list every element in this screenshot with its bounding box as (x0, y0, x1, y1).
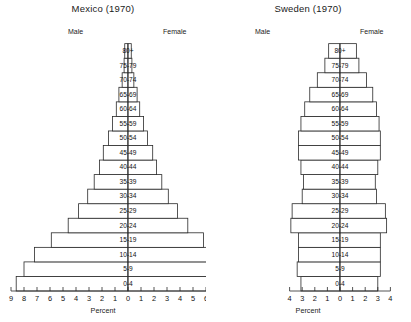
pyramid-row: 30-34 (302, 189, 376, 204)
bar-male (51, 233, 128, 248)
x-axis-tick-label: 1 (113, 294, 117, 303)
pyramid-row: 20-24 (291, 218, 387, 233)
x-axis-tick-label: 6 (48, 294, 52, 303)
pyramid-row: 35-39 (303, 175, 375, 190)
bar-male (34, 247, 128, 262)
pyramid-row: 75-79 (325, 58, 359, 73)
bar-female (128, 247, 206, 262)
x-axis-tick-label: 3 (165, 294, 169, 303)
x-axis-tick-label: 2 (100, 294, 104, 303)
pyramid-row: 15-19 (51, 233, 203, 248)
bar-female (128, 262, 206, 277)
pyramid-row: 10-14 (34, 247, 206, 262)
x-axis-tick-label: 3 (87, 294, 91, 303)
pyramid-row: 60-64 (305, 102, 377, 117)
pyramid-row: 50-54 (298, 131, 380, 146)
bar-female (340, 262, 380, 277)
x-axis-tick-label: 9 (9, 294, 13, 303)
x-axis-tick-label: 4 (178, 294, 182, 303)
x-axis-tick-label: 0 (126, 294, 130, 303)
bar-female (128, 218, 188, 233)
pyramid-svg-mexico: 0-45-910-1415-1920-2425-2930-3435-3940-4… (0, 0, 206, 322)
pyramid-row: 15-19 (298, 233, 380, 248)
x-axis-tick-label: 0 (338, 294, 342, 303)
x-axis-tick-label: 7 (35, 294, 39, 303)
x-axis-tick-label: 2 (363, 294, 367, 303)
pyramid-row: 10-14 (298, 247, 380, 262)
x-axis-tick-label: 2 (313, 294, 317, 303)
pyramid-row: 0-4 (16, 276, 206, 291)
x-axis-tick-label: 3 (376, 294, 380, 303)
bar-male (16, 276, 128, 291)
bar-female (128, 233, 203, 248)
pyramid-row: 65-69 (310, 87, 373, 102)
x-axis-tick-label: 4 (288, 294, 292, 303)
bar-male (24, 262, 128, 277)
x-axis-tick-label: 3 (300, 294, 304, 303)
pyramid-row: 80+ (329, 44, 357, 59)
pyramid-plot-mexico: 0-45-910-1415-1920-2425-2930-3435-3940-4… (0, 0, 206, 322)
x-axis-tick-label: 8 (22, 294, 26, 303)
pyramid-row: 70-74 (317, 73, 366, 88)
chart-panel-mexico: Mexico (1970) Male Female 0-45-910-1415-… (0, 0, 206, 322)
figure-root: Mexico (1970) Male Female 0-45-910-1415-… (0, 0, 411, 322)
bar-male (297, 262, 340, 277)
pyramid-row: 45-49 (298, 146, 380, 161)
pyramid-plot-sweden: 0-45-910-1415-1920-2425-2930-3435-3940-4… (205, 0, 411, 322)
pyramid-row: 40-44 (301, 160, 378, 175)
x-axis-title-mexico: Percent (0, 306, 206, 315)
x-axis-title-sweden: Percent (205, 306, 411, 315)
x-axis-tick-label: 2 (152, 294, 156, 303)
chart-panel-sweden: Sweden (1970) Male Female 0-45-910-1415-… (205, 0, 411, 322)
pyramid-row: 25-29 (292, 204, 385, 219)
x-axis-tick-label: 1 (139, 294, 143, 303)
x-axis-tick-label: 1 (325, 294, 329, 303)
x-axis-tick-label: 5 (61, 294, 65, 303)
pyramid-row: 5-9 (297, 262, 380, 277)
bar-female (340, 276, 378, 291)
x-axis-tick-label: 1 (351, 294, 355, 303)
pyramid-svg-sweden: 0-45-910-1415-1920-2425-2930-3435-3940-4… (205, 0, 411, 322)
pyramid-row: 0-4 (301, 276, 378, 291)
x-axis-tick-label: 4 (74, 294, 78, 303)
pyramid-row: 5-9 (24, 262, 206, 277)
bar-male (301, 276, 340, 291)
x-axis-tick-label: 5 (191, 294, 195, 303)
x-axis-tick-label: 4 (388, 294, 392, 303)
